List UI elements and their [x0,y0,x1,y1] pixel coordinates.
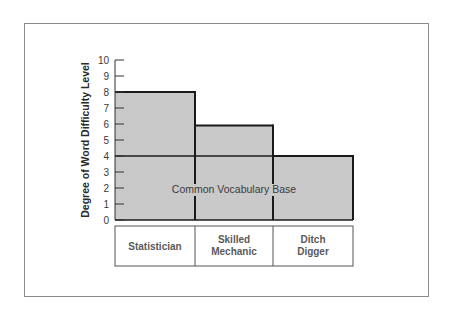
y-tick-label: 3 [103,167,109,178]
bar-chart: 012345678910 Degree of Word Difficulty L… [0,0,450,316]
y-tick-label: 2 [103,183,109,194]
y-tick-label: 0 [103,215,109,226]
y-tick-label: 7 [103,103,109,114]
y-tick-label: 9 [103,71,109,82]
y-tick-label: 1 [103,199,109,210]
y-axis-label: Degree of Word Difficulty Level [79,62,91,218]
y-tick-label: 6 [103,119,109,130]
category-label: Digger [297,246,329,257]
y-tick-label: 8 [103,87,109,98]
reference-line-label: Common Vocabulary Base [172,183,296,195]
y-tick-label: 10 [98,55,110,66]
category-table: StatisticianSkilledMechanicDitchDigger [115,226,353,266]
category-label: Mechanic [211,246,257,257]
category-label: Skilled [218,234,250,245]
category-label: Ditch [301,234,326,245]
y-tick-label: 4 [103,151,109,162]
bar [195,126,273,220]
category-label: Statistician [128,241,181,252]
y-tick-label: 5 [103,135,109,146]
